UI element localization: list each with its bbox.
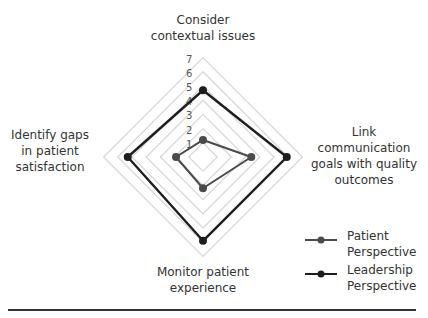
data-point-marker (172, 153, 180, 161)
data-point-marker (199, 136, 207, 144)
axis-label-bottom: Monitor patient experience (140, 264, 266, 296)
axis-label-right: Link communication goals with quality ou… (300, 124, 428, 188)
tick-label: 7 (186, 54, 192, 65)
tick-label: 3 (186, 110, 192, 121)
axis-label-left: Identify gaps in patient satisfaction (0, 127, 100, 175)
data-point-marker (199, 86, 207, 94)
legend: Patient Perspective Leadership Perspecti… (305, 228, 417, 296)
legend-item-leadership: Leadership Perspective (305, 262, 417, 294)
leadership-series-line (128, 90, 287, 241)
data-point-marker (247, 153, 255, 161)
bottom-rule (8, 309, 416, 311)
legend-item-patient: Patient Perspective (305, 228, 417, 260)
tick-label: 6 (186, 68, 192, 79)
axis-label-top: Consider contextual issues (140, 12, 266, 44)
leadership-line-marker-icon (305, 270, 337, 286)
data-point-marker (283, 153, 291, 161)
tick-label: 5 (186, 82, 192, 93)
patient-line-marker-icon (305, 236, 337, 252)
data-point-marker (199, 237, 207, 245)
data-point-marker (124, 153, 132, 161)
data-point-marker (199, 184, 207, 192)
tick-label: 2 (186, 125, 192, 136)
grid-ring (118, 72, 288, 242)
